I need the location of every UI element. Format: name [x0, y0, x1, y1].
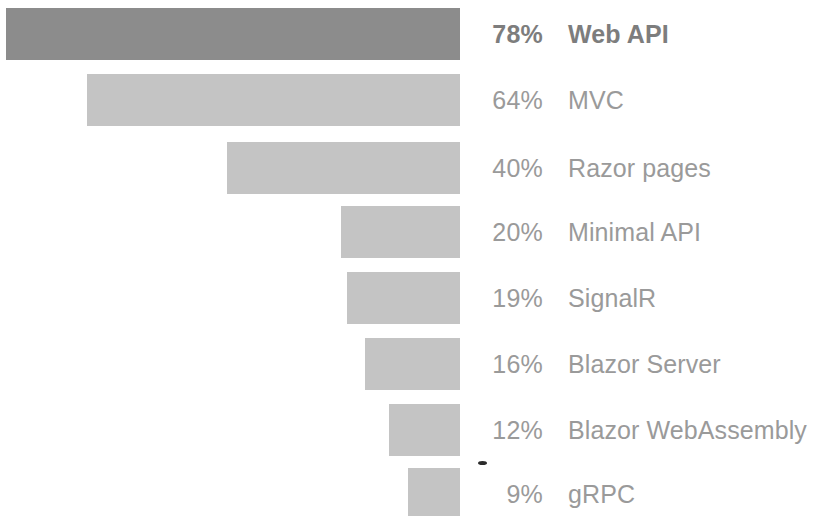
scan-artifact-speck	[478, 461, 487, 465]
bar-track	[0, 272, 460, 324]
bar-blazor-server	[365, 338, 460, 390]
bar-value-label: 78%	[462, 8, 543, 60]
bar-minimal-api	[341, 206, 460, 258]
bar-category-label: Blazor WebAssembly	[568, 404, 807, 456]
table-row: 20% Minimal API	[0, 206, 835, 258]
bar-value-label: 64%	[462, 74, 543, 126]
table-row: 78% Web API	[0, 8, 835, 60]
bar-category-label: Razor pages	[568, 142, 711, 194]
bar-category-label: MVC	[568, 74, 624, 126]
bar-category-label: gRPC	[568, 468, 635, 516]
bar-category-label: Web API	[568, 8, 669, 60]
table-row: 40% Razor pages	[0, 142, 835, 194]
horizontal-bar-chart: 78% Web API 64% MVC 40% Razor pages 20% …	[0, 0, 835, 516]
bar-track	[0, 142, 460, 194]
bar-category-label: Blazor Server	[568, 338, 721, 390]
bar-signalr	[347, 272, 460, 324]
bar-track	[0, 8, 460, 60]
bar-track	[0, 206, 460, 258]
bar-track	[0, 74, 460, 126]
bar-web-api	[6, 8, 460, 60]
table-row: 19% SignalR	[0, 272, 835, 324]
table-row: 12% Blazor WebAssembly	[0, 404, 835, 456]
bar-track	[0, 404, 460, 456]
bar-value-label: 12%	[462, 404, 543, 456]
bar-value-label: 40%	[462, 142, 543, 194]
bar-value-label: 19%	[462, 272, 543, 324]
bar-value-label: 20%	[462, 206, 543, 258]
bar-razor-pages	[227, 142, 460, 194]
bar-value-label: 16%	[462, 338, 543, 390]
bar-category-label: Minimal API	[568, 206, 701, 258]
bar-category-label: SignalR	[568, 272, 656, 324]
table-row: 64% MVC	[0, 74, 835, 126]
bar-track	[0, 468, 460, 516]
bar-mvc	[87, 74, 460, 126]
bar-blazor-webassembly	[389, 404, 460, 456]
bar-grpc	[408, 468, 460, 516]
bar-value-label: 9%	[462, 468, 543, 516]
table-row: 9% gRPC	[0, 468, 835, 516]
bar-track	[0, 338, 460, 390]
table-row: 16% Blazor Server	[0, 338, 835, 390]
